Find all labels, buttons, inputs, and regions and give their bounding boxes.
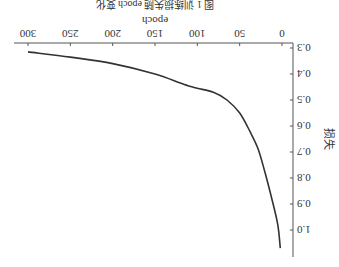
x-tick-label: 50	[234, 28, 246, 40]
chart-title: 图 1 训练损失随 epoch 变化	[96, 0, 215, 11]
chart-canvas: 0501001502002503000.30.40.50.60.70.80.91…	[0, 0, 339, 267]
x-tick-label: 250	[62, 28, 79, 40]
y-tick-label: 1.0	[297, 224, 311, 236]
y-tick-label: 0.4	[297, 68, 311, 80]
x-tick-label: 0	[279, 28, 285, 40]
y-axis-label: 损失	[323, 128, 336, 150]
y-tick-label: 0.3	[297, 42, 311, 54]
y-tick-label: 0.6	[297, 120, 311, 132]
y-tick-label: 0.8	[297, 172, 311, 184]
x-tick-label: 150	[146, 28, 163, 40]
x-tick-label: 200	[104, 28, 121, 40]
y-tick-label: 0.7	[297, 146, 311, 158]
y-tick-label: 0.5	[297, 94, 311, 106]
x-tick-label: 100	[189, 28, 206, 40]
x-axis-label: epoch	[141, 15, 168, 27]
y-tick-label: 0.9	[297, 198, 311, 210]
loss-curve	[28, 52, 280, 248]
loss-chart: 0501001502002503000.30.40.50.60.70.80.91…	[0, 0, 339, 267]
axes: 0501001502002503000.30.40.50.60.70.80.91…	[14, 28, 311, 257]
x-tick-label: 300	[19, 28, 36, 40]
